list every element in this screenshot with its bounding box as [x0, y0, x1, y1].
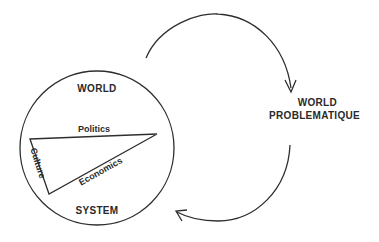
world-system-circle: [20, 71, 174, 225]
world-system-group: WORLD SYSTEM Politics Culture Economics: [20, 71, 174, 225]
world-system-diagram: WORLD SYSTEM Politics Culture Economics …: [0, 0, 379, 242]
problematique-line1: WORLD: [298, 97, 337, 108]
culture-politics-economics-triangle: [30, 134, 157, 194]
world-problematique-group: WORLD PROBLEMATIQUE: [269, 97, 360, 121]
culture-label: Culture: [28, 147, 47, 180]
arrow-problematique-to-system: [176, 145, 290, 221]
arrow-system-to-problematique: [146, 14, 296, 92]
politics-label: Politics: [78, 124, 110, 134]
system-label: SYSTEM: [76, 205, 119, 216]
lower-arc: [177, 145, 290, 221]
upper-arc: [146, 14, 291, 88]
world-label: WORLD: [77, 83, 116, 94]
economics-label: Economics: [77, 155, 124, 187]
problematique-line2: PROBLEMATIQUE: [269, 110, 360, 121]
